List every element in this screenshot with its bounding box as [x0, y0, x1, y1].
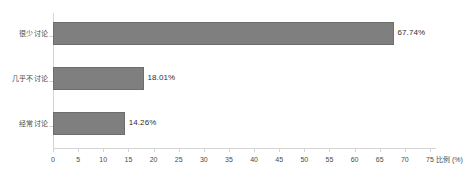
category-label-1: 几乎不讨论 [0, 74, 48, 83]
category-label-0: 很少讨论 [0, 29, 48, 38]
x-axis-tick-label: 35 [225, 155, 233, 164]
x-axis-tick-label: 10 [99, 155, 107, 164]
bar-chart: 很少讨论 67.74% 几乎不讨论 18.01% 经常讨论 14.26% 051… [0, 0, 476, 184]
bar-1[interactable] [53, 67, 144, 90]
x-axis-tick-label: 30 [200, 155, 208, 164]
x-axis-tick [430, 148, 431, 152]
bar-2[interactable] [53, 112, 125, 135]
x-axis-tick-label: 25 [175, 155, 183, 164]
x-axis-tick [204, 148, 205, 152]
x-axis-tick-label: 50 [300, 155, 308, 164]
category-label-2: 经常讨论 [0, 119, 48, 128]
x-axis-tick [103, 148, 104, 152]
bar-value-label-0: 67.74% [398, 28, 426, 38]
x-axis-tick-label: 0 [51, 155, 55, 164]
x-axis-tick [380, 148, 381, 152]
x-axis-tick [355, 148, 356, 152]
x-axis-tick [53, 148, 54, 152]
x-axis-tick-label: 60 [351, 155, 359, 164]
x-axis-tick-label: 65 [376, 155, 384, 164]
x-axis-title: 比例 (%) [436, 155, 463, 164]
x-axis-tick [179, 148, 180, 152]
x-axis-tick-label: 75 [426, 155, 434, 164]
x-axis-tick [128, 148, 129, 152]
x-axis-tick [229, 148, 230, 152]
x-axis-tick-label: 45 [275, 155, 283, 164]
x-axis-tick-label: 20 [150, 155, 158, 164]
bar-value-label-1: 18.01% [148, 73, 176, 83]
x-axis-tick [254, 148, 255, 152]
x-axis-tick [304, 148, 305, 152]
bar-0[interactable] [53, 22, 394, 45]
x-axis-tick [78, 148, 79, 152]
x-axis-tick [279, 148, 280, 152]
bar-value-label-2: 14.26% [129, 118, 157, 128]
x-axis-line [53, 148, 436, 149]
x-axis-tick [405, 148, 406, 152]
x-axis-tick-label: 15 [124, 155, 132, 164]
x-axis-tick-label: 70 [401, 155, 409, 164]
x-axis-tick-label: 55 [326, 155, 334, 164]
x-axis-tick-label: 40 [250, 155, 258, 164]
x-axis-tick-label: 5 [76, 155, 80, 164]
x-axis-tick [154, 148, 155, 152]
x-axis-tick [329, 148, 330, 152]
